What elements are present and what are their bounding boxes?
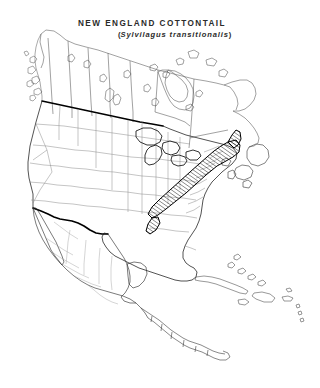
- map-background: [0, 0, 320, 388]
- range-map-figure: NEW ENGLAND COTTONTAIL (Sylvilagus trans…: [0, 0, 320, 388]
- north-america-map: [0, 0, 320, 388]
